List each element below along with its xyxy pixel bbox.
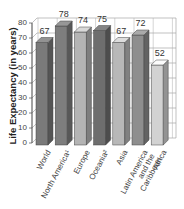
bar [113, 38, 130, 146]
y-tick-label: 60 [13, 48, 27, 57]
bar [132, 30, 149, 145]
y-tick-label: 30 [13, 93, 27, 102]
value-label: 67 [111, 26, 131, 36]
value-label: 67 [35, 26, 55, 36]
bar [36, 38, 53, 146]
y-tick-label: 70 [13, 33, 27, 42]
value-label: 52 [150, 48, 170, 58]
value-label: 78 [54, 9, 74, 19]
y-tick-label: 50 [13, 63, 27, 72]
bar [94, 26, 111, 146]
y-tick-label: 0 [13, 138, 27, 147]
value-label: 72 [131, 18, 151, 28]
y-tick-label: 20 [13, 108, 27, 117]
bar [55, 21, 72, 145]
value-label: 74 [73, 15, 93, 25]
y-tick-label: 80 [13, 18, 27, 27]
y-tick-label: 10 [13, 123, 27, 132]
bar [74, 27, 91, 145]
value-label: 75 [92, 14, 112, 24]
y-tick-label: 40 [13, 78, 27, 87]
bar [151, 60, 168, 145]
life-expectancy-bar-chart: Life Expectancy (in years) 0102030405060… [0, 0, 184, 209]
